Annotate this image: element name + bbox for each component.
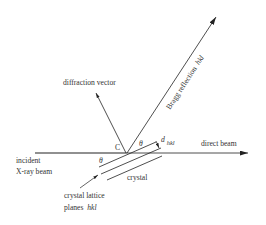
lattice-label-line2: planes hkl <box>64 203 97 212</box>
d-spacing-marker <box>156 141 159 148</box>
direct-beam-label: direct beam <box>201 139 237 148</box>
bragg-reflection-label: Bragg reflection hkl <box>164 54 206 112</box>
lattice-pointer-arrow <box>80 175 98 188</box>
theta-upper-label: θ <box>139 139 143 148</box>
lattice-plane-2 <box>101 148 161 174</box>
lattice-label-line1: crystal lattice <box>64 191 105 200</box>
diffraction-vector-arrow <box>96 93 126 153</box>
lattice-plane-1 <box>99 142 156 167</box>
crystal-label: crystal <box>127 173 147 182</box>
diffraction-vector-label: diffraction vector <box>63 78 116 87</box>
incident-label-line2: X-ray beam <box>16 167 52 176</box>
bragg-reflection-arrow <box>127 17 216 153</box>
bragg-diagram: diffraction vector Bragg reflection hkl … <box>0 0 266 225</box>
theta-lower-label: θ <box>99 156 103 165</box>
point-c-label: C <box>115 143 120 152</box>
d-hkl-label: d hkl <box>161 135 175 146</box>
incident-label-line1: incident <box>16 156 41 165</box>
